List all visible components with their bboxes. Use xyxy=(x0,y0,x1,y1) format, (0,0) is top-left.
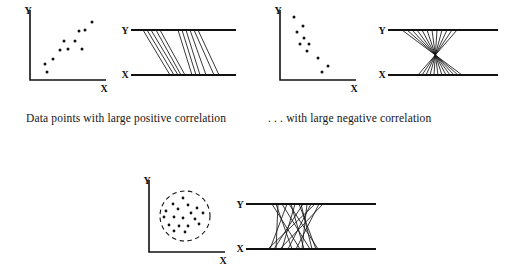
pc-y-axis-label: Y xyxy=(236,199,244,210)
pc-x-axis-label: X xyxy=(378,69,386,80)
scatter-negative-svg: Y X xyxy=(264,4,362,96)
y-axis-label: Y xyxy=(143,175,151,186)
parallel-positive-svg: Y X xyxy=(118,4,240,96)
scatter-axes xyxy=(149,180,225,252)
parallel-uncorrelated-svg: Y X xyxy=(232,182,382,270)
scatter-points-negative xyxy=(293,16,330,74)
scatter-positive-svg: Y X xyxy=(14,4,112,96)
panel-positive-scatter: Y X xyxy=(14,4,112,96)
panel-positive-parallel: Y X xyxy=(118,4,240,96)
pc-y-axis-label: Y xyxy=(121,25,129,36)
panel-negative-scatter: Y X xyxy=(264,4,362,96)
panel-negative-parallel: Y X xyxy=(374,4,504,96)
pc-links-uncorrelated xyxy=(268,204,323,249)
panel-uncorrelated-parallel: Y X xyxy=(232,182,382,270)
panel-uncorrelated-scatter: Y X xyxy=(133,174,231,270)
pc-x-axis-label: X xyxy=(236,243,244,254)
pc-x-axis-label: X xyxy=(121,69,129,80)
scatter-axes xyxy=(280,10,356,80)
scatter-points-uncorrelated xyxy=(163,197,205,234)
x-axis-label: X xyxy=(100,83,108,94)
caption-negative: . . . with large negative correlation xyxy=(268,112,431,124)
pc-links-negative xyxy=(402,30,462,75)
x-axis-label: X xyxy=(350,83,358,94)
scatter-points-positive xyxy=(44,21,94,74)
y-axis-label: Y xyxy=(24,5,32,16)
x-axis-label: X xyxy=(219,255,227,266)
caption-positive: Data points with large positive correlat… xyxy=(26,112,226,124)
pc-y-axis-label: Y xyxy=(378,25,386,36)
scatter-uncorrelated-svg: Y X xyxy=(133,174,231,270)
dashed-circle-annotation xyxy=(160,191,210,241)
scatter-axes xyxy=(30,10,106,80)
y-axis-label: Y xyxy=(274,5,282,16)
parallel-negative-svg: Y X xyxy=(374,4,504,96)
pc-links-positive xyxy=(143,30,219,75)
